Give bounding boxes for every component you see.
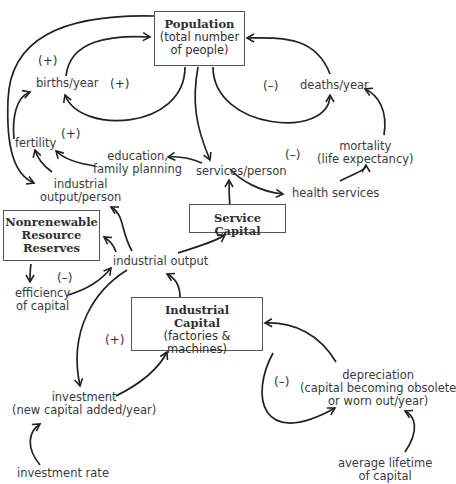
- loop-sign-investment: (+): [105, 333, 124, 347]
- investment-rate-label: investment rate: [17, 467, 109, 480]
- loop-sign-births-inner: (+): [110, 77, 129, 91]
- ind-output-person-line-2: output/person: [40, 191, 121, 204]
- population-subtitle-2: of people): [155, 44, 244, 57]
- education-line-2: family planning: [93, 163, 182, 176]
- investment-line-2: (new capital added/year): [12, 404, 156, 417]
- loop-sign-deaths: (–): [263, 79, 278, 93]
- births-year-label: births/year: [36, 77, 99, 90]
- efficiency-line-2: of capital: [15, 300, 70, 313]
- loop-sign-depreciation: (–): [274, 375, 289, 389]
- depreciation-label: depreciation (capital becoming obsolete …: [300, 369, 456, 408]
- fertility-label: fertility: [15, 137, 56, 150]
- loop-sign-births-outer: (+): [38, 54, 57, 68]
- service-capital-title: Service Capital: [190, 212, 285, 238]
- services-person-label: services/person: [196, 165, 286, 178]
- nonrenewable-stock: Nonrenewable Resource Reserves: [3, 210, 100, 261]
- mortality-label: mortality (life expectancy): [317, 140, 414, 166]
- service-capital-stock: Service Capital: [189, 204, 286, 233]
- loop-sign-health: (–): [285, 148, 300, 162]
- loop-sign-fertility: (+): [61, 127, 80, 141]
- loop-sign-efficiency: (–): [57, 271, 72, 285]
- education-label: education, family planning: [93, 150, 182, 176]
- mortality-line-2: (life expectancy): [317, 153, 414, 166]
- industrial-output-person-label: industrial output/person: [40, 178, 121, 204]
- efficiency-label: efficiency of capital: [15, 287, 70, 313]
- deaths-year-label: deaths/year: [300, 79, 369, 92]
- industrial-capital-stock: Industrial Capital (factories & machines…: [131, 297, 263, 351]
- investment-label: investment (new capital added/year): [12, 391, 156, 417]
- average-lifetime-label: average lifetime of capital: [338, 457, 432, 483]
- industrial-output-label: industrial output: [113, 255, 208, 268]
- lifetime-line-2: of capital: [338, 470, 432, 483]
- industrial-capital-subtitle: (factories & machines): [132, 330, 262, 356]
- population-stock: Population (total number of people): [154, 11, 245, 66]
- nonrenewable-title-3: Reserves: [4, 242, 99, 255]
- health-services-label: health services: [292, 187, 379, 200]
- depreciation-line-3: or worn out/year): [300, 395, 456, 408]
